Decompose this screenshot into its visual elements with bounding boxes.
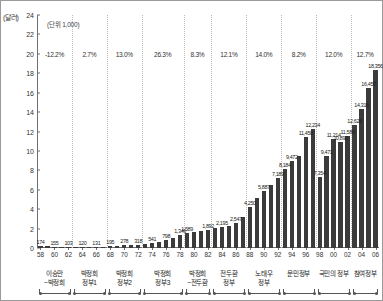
growth-rate-label: 12.0% xyxy=(325,51,342,58)
bar-value-label: 12,234 xyxy=(305,122,319,128)
era-bracket xyxy=(74,289,106,294)
bar xyxy=(59,247,63,248)
growth-rate-label: 8.3% xyxy=(191,51,205,58)
bar-value-label: 541 xyxy=(148,236,156,242)
bar xyxy=(352,125,356,248)
x-axis-tick-mark xyxy=(96,248,97,250)
x-axis-year-label: 68 xyxy=(107,251,114,258)
x-axis-tick-mark xyxy=(152,248,153,250)
y-axis-tick-label: 12 xyxy=(26,128,37,135)
era-label-line1: 박정희 xyxy=(116,270,133,279)
era-bracket xyxy=(144,289,183,294)
era-label-line1: 문민정부 xyxy=(287,270,310,279)
x-axis-tick-mark xyxy=(376,248,377,250)
bar xyxy=(157,242,161,248)
growth-rate-label: 12.7% xyxy=(356,51,373,58)
bar-value-label: 4,250 xyxy=(244,200,256,206)
bar-value-label: 12,626 xyxy=(347,118,361,124)
era-label: 박정희~전두환 xyxy=(187,270,208,287)
x-axis-tick-mark xyxy=(278,248,279,250)
growth-rate-label: 14.0% xyxy=(255,51,272,58)
y-axis-tick-label: 20 xyxy=(26,50,37,57)
growth-rate-label: -12.2% xyxy=(45,51,64,58)
era-label-line1: 전두환 xyxy=(220,270,237,279)
bar-value-label: 7,354 xyxy=(314,170,326,176)
bar xyxy=(297,156,301,248)
bar-value-label: 2,547 xyxy=(230,216,242,222)
y-axis-tick-label: 14 xyxy=(26,109,37,116)
x-axis-tick-mark xyxy=(334,248,335,250)
bar xyxy=(338,142,342,248)
era-label: 참여정부 xyxy=(354,270,377,279)
y-axis-tick-label: 10 xyxy=(26,147,37,154)
bar xyxy=(220,227,224,248)
x-axis-year-label: 62 xyxy=(65,251,72,258)
bar xyxy=(269,185,273,248)
x-axis-tick-mark xyxy=(362,248,363,250)
bar xyxy=(199,231,203,248)
era-bracket xyxy=(353,289,378,294)
growth-rate-label: 12.1% xyxy=(220,51,237,58)
bar-chart-container: (달러) (단위 1,000) 242220181614121086420 17… xyxy=(0,0,383,301)
bar xyxy=(234,223,238,248)
growth-rate-label: 13.0% xyxy=(116,51,133,58)
era-label-line1: 박정희 xyxy=(81,270,98,279)
x-axis-year-label: 90 xyxy=(260,251,267,258)
era-label: 이승만~박정희 xyxy=(44,270,65,287)
x-axis-year-label: 70 xyxy=(121,251,128,258)
bar xyxy=(304,137,308,248)
x-axis-year-label: 92 xyxy=(274,251,281,258)
x-axis-year-label: 00 xyxy=(330,251,337,258)
x-axis-year-label: 58 xyxy=(37,251,44,258)
era-label: 문민정부 xyxy=(287,270,310,279)
bar-value-label: 103 xyxy=(64,240,72,246)
x-axis-tick-mark xyxy=(236,248,237,250)
era-label-line2: ~박정희 xyxy=(44,279,65,288)
bar-value-label: 11,589 xyxy=(341,129,355,135)
x-axis-tick-mark xyxy=(194,248,195,250)
bar-value-label: 9,472 xyxy=(286,154,298,160)
x-axis-year-label: 04 xyxy=(358,251,365,258)
bar-value-label: 10,890 xyxy=(333,135,347,141)
x-axis-year-label: 96 xyxy=(302,251,309,258)
x-axis-tick-mark xyxy=(180,248,181,250)
bar xyxy=(359,109,363,248)
x-axis-year-label: 86 xyxy=(232,251,239,258)
x-axis-tick-mark xyxy=(166,248,167,250)
bar-series: 1741551031201311952783185417981,3461,589… xyxy=(37,15,379,248)
y-axis-tick-label: 22 xyxy=(26,31,37,38)
x-axis-year-label: 84 xyxy=(218,251,225,258)
era-bracket xyxy=(213,289,245,294)
bar xyxy=(171,238,175,248)
x-axis-year-label: 66 xyxy=(93,251,100,258)
bar-value-label: 174 xyxy=(37,239,45,245)
growth-rate-label: 26.3% xyxy=(154,51,171,58)
bar-value-label: 1,589 xyxy=(181,226,193,232)
bar-value-label: 14,316 xyxy=(354,102,368,108)
era-label-line1: 이승만 xyxy=(44,270,65,279)
growth-rate-label: 2.7% xyxy=(82,51,96,58)
x-axis-year-label: 98 xyxy=(316,251,323,258)
bar xyxy=(311,129,315,248)
era-label: 박정희정부1 xyxy=(81,270,98,287)
era-label: 노태우정부 xyxy=(255,270,272,287)
x-axis-year-label: 78 xyxy=(177,251,184,258)
x-axis-year-label: 72 xyxy=(135,251,142,258)
bar xyxy=(227,226,231,248)
era-label-line2: 정부 xyxy=(255,279,272,288)
era-label: 박정희정부2 xyxy=(116,270,133,287)
x-axis-tick-mark xyxy=(68,248,69,250)
bar xyxy=(366,88,370,248)
era-label: 전두환정부 xyxy=(220,270,237,287)
bar xyxy=(164,240,168,248)
bar xyxy=(276,178,280,248)
era-bracket xyxy=(109,289,141,294)
bar-value-label: 9,471 xyxy=(321,149,333,155)
bar xyxy=(345,136,349,249)
x-axis-tick-mark xyxy=(54,248,55,250)
x-axis-year-label: 88 xyxy=(246,251,253,258)
x-axis-year-label: 76 xyxy=(163,251,170,258)
x-axis-year-label: 82 xyxy=(204,251,211,258)
bar-value-label: 318 xyxy=(134,238,142,244)
x-axis-year-label: 06 xyxy=(372,251,379,258)
